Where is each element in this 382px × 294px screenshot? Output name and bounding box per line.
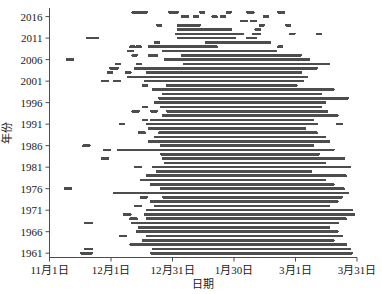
data-point-marker (318, 93, 322, 96)
data-point-marker (298, 71, 302, 74)
data-point-marker (86, 144, 90, 147)
data-point-marker (322, 101, 326, 104)
data-point-marker (134, 54, 138, 57)
data-point-marker (341, 187, 345, 190)
data-point-marker (88, 252, 92, 255)
data-point-marker (314, 67, 318, 70)
data-point-marker (138, 63, 142, 66)
data-point-marker (213, 45, 217, 48)
data-point-marker (349, 252, 353, 255)
data-point-marker (144, 84, 148, 87)
data-point-marker (318, 106, 322, 109)
data-point-marker (326, 205, 330, 208)
data-point-marker (127, 71, 131, 74)
data-point-marker (105, 157, 109, 160)
data-point-marker (129, 50, 133, 53)
data-point-marker (109, 71, 113, 74)
data-point-marker (267, 41, 271, 44)
data-point-marker (326, 63, 330, 66)
data-point-marker (156, 41, 160, 44)
data-point-marker (213, 15, 217, 18)
data-point-marker (310, 119, 314, 122)
data-point-marker (250, 11, 254, 14)
data-point-marker (185, 15, 189, 18)
y-axis-title: 年份 (0, 122, 13, 144)
data-point-marker (144, 196, 148, 199)
data-point-marker (70, 58, 74, 61)
chart-canvas: 1961196619711976198119861991199620012006… (0, 0, 382, 294)
data-point-marker (339, 235, 343, 238)
scatter-chart: 1961196619711976198119861991199620012006… (0, 0, 382, 294)
data-point-marker (68, 187, 72, 190)
data-point-marker (117, 80, 121, 83)
data-point-marker (144, 119, 148, 122)
data-point-marker (334, 222, 338, 225)
data-point-marker (326, 226, 330, 229)
data-point-marker (144, 106, 148, 109)
y-tick-label: 1976 (21, 183, 44, 195)
data-point-marker (308, 170, 312, 173)
data-point-marker (175, 11, 179, 14)
data-point-marker (279, 45, 283, 48)
data-point-marker (343, 217, 347, 220)
data-point-marker (244, 20, 248, 23)
data-point-marker (343, 243, 347, 246)
data-point-marker (107, 149, 111, 152)
data-point-marker (273, 50, 277, 53)
data-point-marker (252, 37, 256, 40)
data-point-marker (123, 235, 127, 238)
data-point-marker (138, 166, 142, 169)
data-point-marker (314, 123, 318, 126)
data-point-marker (322, 162, 326, 165)
data-point-marker (281, 11, 285, 14)
data-point-marker (314, 131, 318, 134)
data-point-marker (306, 58, 310, 61)
data-point-marker (257, 33, 261, 36)
data-point-marker (228, 11, 232, 14)
data-point-marker (293, 84, 297, 87)
y-tick-label: 2006 (21, 54, 44, 66)
data-point-marker (324, 110, 328, 113)
data-point-marker (318, 33, 322, 36)
data-point-marker (138, 205, 142, 208)
data-point-marker (330, 183, 334, 186)
y-tick-label: 2016 (21, 11, 44, 23)
data-point-marker (322, 179, 326, 182)
y-tick-label: 2011 (21, 32, 43, 44)
y-tick-label: 1991 (21, 118, 43, 130)
data-point-marker (330, 88, 334, 91)
x-axis-title: 日期 (192, 278, 214, 290)
y-tick-label: 1961 (21, 247, 43, 259)
data-point-marker (316, 153, 320, 156)
data-point-marker (347, 166, 351, 169)
data-point-marker (252, 20, 256, 23)
data-point-marker (88, 248, 92, 251)
data-point-marker (222, 15, 226, 18)
data-point-marker (228, 28, 232, 31)
data-point-marker (197, 24, 201, 27)
y-tick-label: 2001 (21, 75, 43, 87)
data-point-marker (291, 33, 295, 36)
data-point-marker (349, 209, 353, 212)
data-point-marker (287, 24, 291, 27)
y-tick-label: 1966 (21, 226, 44, 238)
data-point-marker (300, 80, 304, 83)
data-point-marker (88, 222, 92, 225)
x-tick-label: 12月31日 (151, 264, 195, 276)
data-point-marker (345, 192, 349, 195)
data-point-marker (302, 127, 306, 130)
data-point-marker (127, 213, 131, 216)
data-point-marker (304, 76, 308, 79)
data-point-marker (334, 114, 338, 117)
x-tick-label: 11月1日 (30, 264, 68, 276)
x-tick-label: 1月30日 (215, 264, 254, 276)
data-point-marker (136, 110, 140, 113)
data-point-marker (339, 123, 343, 126)
data-point-marker (265, 15, 269, 18)
data-point-marker (131, 45, 135, 48)
data-point-marker (134, 217, 138, 220)
data-point-marker (330, 239, 334, 242)
data-point-marker (158, 24, 162, 27)
data-point-marker (334, 230, 338, 233)
data-point-marker (105, 80, 109, 83)
